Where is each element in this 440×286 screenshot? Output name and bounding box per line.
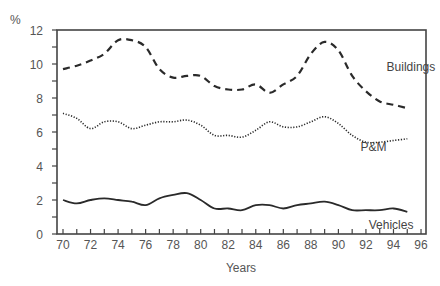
x-tick-label: 76 [139, 238, 153, 252]
x-axis: 7072747678808284868890929496 [56, 229, 428, 252]
x-tick-label: 70 [56, 238, 70, 252]
plot-frame [57, 30, 426, 234]
y-tick-label: 4 [36, 160, 43, 174]
x-tick-label: 78 [166, 238, 180, 252]
x-tick-label: 94 [387, 238, 401, 252]
y-axis-unit-label: % [10, 13, 21, 27]
y-tick-label: 6 [36, 126, 43, 140]
y-tick-label: 10 [30, 58, 44, 72]
series-layer [63, 39, 407, 212]
x-tick-label: 74 [111, 238, 125, 252]
x-tick-label: 86 [277, 238, 291, 252]
y-tick-label: 12 [30, 24, 44, 38]
x-tick-label: 84 [249, 238, 263, 252]
x-tick-label: 88 [304, 238, 318, 252]
series-label-vehicles: Vehicles [369, 218, 414, 232]
series-line-buildings [63, 39, 407, 108]
x-tick-label: 72 [84, 238, 98, 252]
x-tick-label: 92 [359, 238, 373, 252]
series-line-p-m [63, 113, 407, 142]
series-line-vehicles [63, 193, 407, 212]
series-label-buildings: Buildings [387, 60, 436, 74]
x-tick-label: 82 [222, 238, 236, 252]
x-axis-title: Years [226, 261, 256, 275]
series-label-p-m: P&M [360, 140, 386, 154]
x-tick-label: 80 [194, 238, 208, 252]
series-labels: BuildingsP&MVehicles [360, 60, 435, 232]
x-tick-label: 90 [332, 238, 346, 252]
x-tick-label: 96 [414, 238, 428, 252]
y-tick-label: 2 [36, 194, 43, 208]
y-tick-label: 8 [36, 92, 43, 106]
y-axis: 024681012 [30, 24, 57, 242]
y-tick-label: 0 [36, 228, 43, 242]
line-chart: 024681012 7072747678808284868890929496 B… [0, 0, 440, 286]
plot-border [57, 30, 426, 234]
